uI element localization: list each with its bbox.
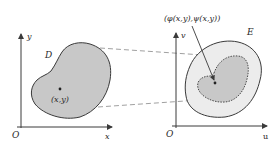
x-axis-label: x: [105, 132, 110, 141]
right-panel: (φ(x,y),ψ(x,y)) E v u O: [164, 14, 268, 141]
origin-label-left: O: [12, 130, 20, 140]
image-point-label: (φ(x,y),ψ(x,y)): [164, 14, 220, 23]
point-image: [214, 82, 217, 85]
region-d-label: D: [44, 50, 52, 60]
origin-label-right: O: [166, 129, 174, 139]
point-label: (x,y): [51, 95, 69, 104]
mapping-diagram: (x,y) D y x O (φ(x,y),ψ(x,y)) E v u O: [0, 0, 277, 147]
point-xy: [59, 88, 62, 91]
left-panel: (x,y) D y x O: [12, 32, 112, 141]
v-axis-label: v: [181, 31, 186, 40]
region-e-label: E: [246, 27, 254, 37]
y-axis-label: y: [26, 32, 32, 41]
u-axis-label: u: [263, 132, 268, 141]
